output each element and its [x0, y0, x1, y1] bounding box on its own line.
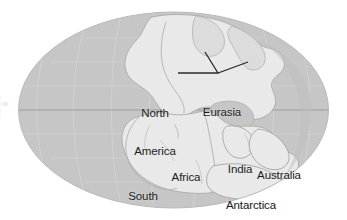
pangaea-map-figure: North America Eurasia South America Afri… — [0, 0, 347, 220]
scan-edge-artifact — [0, 96, 9, 120]
world-map-graphic — [0, 0, 347, 220]
